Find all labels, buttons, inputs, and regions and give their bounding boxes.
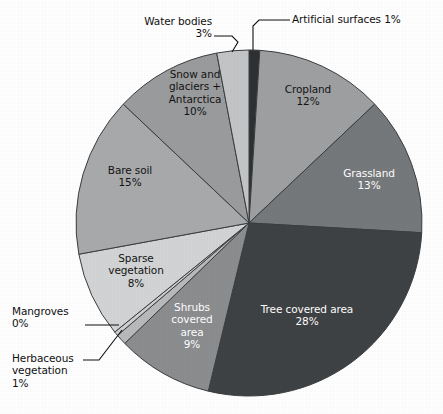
leader-line-artificial-surfaces xyxy=(253,20,290,50)
leader-line-water-bodies xyxy=(214,36,238,52)
pie-chart: Cropland 12% Grassland 13% Tree covered … xyxy=(0,0,443,414)
pie-slices-group xyxy=(76,50,422,396)
pie-chart-canvas xyxy=(0,0,443,414)
